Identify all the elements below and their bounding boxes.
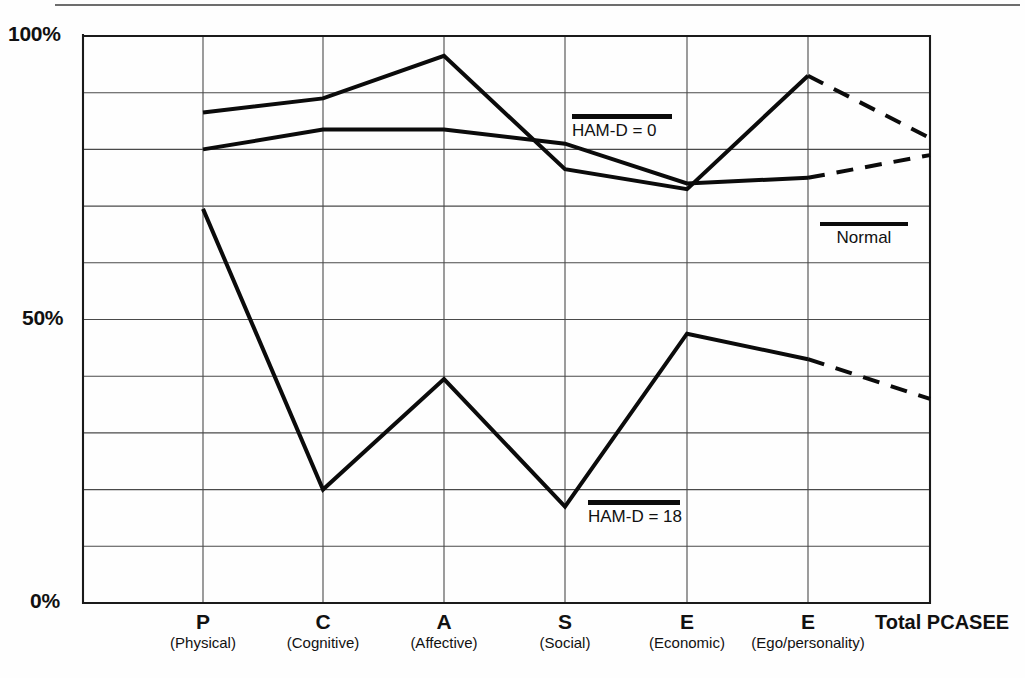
- legend-normal: Normal: [820, 222, 908, 248]
- x-axis-tick-social: S (Social): [540, 610, 591, 652]
- chart-figure: 100% 50% 0% P (Physical) C (Cognitive) A…: [0, 0, 1025, 678]
- x-axis-tick-economic: E (Economic): [649, 610, 725, 652]
- series-hamd18: [203, 209, 930, 507]
- series-hamd0: [203, 130, 930, 184]
- legend-label: HAM-D = 18: [588, 505, 682, 527]
- x-tick-letter: S: [540, 610, 591, 633]
- x-tick-sublabel: (Cognitive): [287, 633, 360, 652]
- x-axis-tick-affective: A (Affective): [410, 610, 477, 652]
- y-axis-label-50: 50%: [22, 306, 63, 330]
- y-axis-label-0: 0%: [30, 589, 60, 613]
- series-normal-dashed: [808, 76, 930, 138]
- x-tick-letter: E: [649, 610, 725, 633]
- legend-label: Normal: [820, 226, 908, 248]
- x-tick-sublabel: (Economic): [649, 633, 725, 652]
- legend-hamd-18: HAM-D = 18: [588, 500, 682, 527]
- y-axis-label-100: 100%: [8, 22, 61, 46]
- legend-label: HAM-D = 0: [572, 119, 672, 141]
- x-axis-tick-ego-personality: E (Ego/personality): [751, 610, 864, 652]
- series-normal: [203, 56, 930, 189]
- x-tick-letter: E: [751, 610, 864, 633]
- series-hamd0-dashed: [808, 155, 930, 178]
- legend-hamd-0: HAM-D = 0: [572, 114, 672, 141]
- series-hamd18-solid: [203, 209, 808, 507]
- x-tick-sublabel: (Ego/personality): [751, 633, 864, 652]
- x-axis-tick-physical: P (Physical): [170, 610, 236, 652]
- series-hamd18-dashed: [808, 359, 930, 399]
- series-normal-solid: [203, 56, 808, 189]
- x-axis-total-label: Total PCASEE: [875, 611, 1009, 634]
- x-tick-letter: P: [170, 610, 236, 633]
- x-axis-tick-cognitive: C (Cognitive): [287, 610, 360, 652]
- x-tick-sublabel: (Affective): [410, 633, 477, 652]
- line-chart-canvas: [0, 0, 1025, 678]
- x-tick-sublabel: (Social): [540, 633, 591, 652]
- x-tick-letter: C: [287, 610, 360, 633]
- x-tick-letter: A: [410, 610, 477, 633]
- series-hamd0-solid: [203, 130, 808, 184]
- x-tick-sublabel: (Physical): [170, 633, 236, 652]
